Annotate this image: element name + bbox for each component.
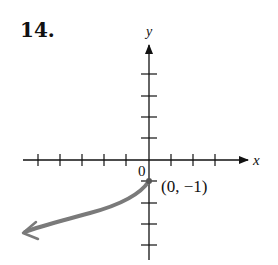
point-label: (0, −1) xyxy=(161,177,207,196)
start-point xyxy=(146,178,152,184)
x-axis-label: x xyxy=(252,152,260,168)
origin-label: 0 xyxy=(138,163,146,179)
y-axis-label: y xyxy=(144,24,153,39)
coordinate-graph: y x 0 (0, −1) xyxy=(0,0,278,265)
function-curve xyxy=(25,181,149,232)
